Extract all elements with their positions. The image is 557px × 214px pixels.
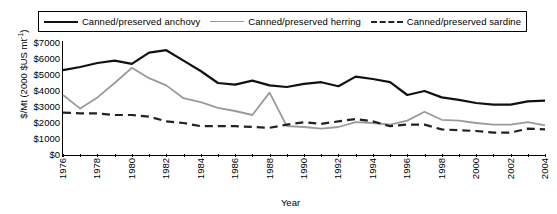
- x-axis-minor-tick: [373, 154, 374, 157]
- x-axis-title: Year: [0, 197, 557, 208]
- x-tick-label: 1996: [402, 158, 412, 179]
- x-axis-minor-tick: [545, 154, 546, 157]
- y-tick-label: $3000: [34, 102, 60, 112]
- x-tick-label: 1982: [161, 158, 171, 179]
- legend-item-herring: Canned/preserved herring: [210, 17, 361, 27]
- x-axis-title-text: Year: [281, 197, 300, 208]
- x-tick-label: 1992: [333, 158, 343, 179]
- x-axis-minor-tick: [287, 154, 288, 157]
- y-tick-label: $2000: [34, 118, 60, 128]
- x-axis-minor-tick: [149, 154, 150, 157]
- y-tick-label: $4000: [34, 86, 60, 96]
- y-tick-label: $6000: [34, 54, 60, 64]
- x-axis-minor-tick: [166, 154, 167, 157]
- dashed-dark-line-icon: [371, 21, 403, 23]
- x-tick-label: 2004: [540, 158, 550, 179]
- x-axis-minor-tick: [493, 154, 494, 157]
- solid-dark-line-icon: [44, 21, 78, 23]
- solid-grey-line-icon: [210, 21, 244, 22]
- x-axis-minor-tick: [425, 154, 426, 157]
- x-tick-label: 1978: [92, 158, 102, 179]
- x-axis-minor-tick: [338, 154, 339, 157]
- chart-legend: Canned/preserved anchovy Canned/preserve…: [38, 11, 527, 32]
- x-axis-minor-tick: [321, 154, 322, 157]
- x-axis-minor-tick: [97, 154, 98, 157]
- x-axis-minor-tick: [63, 154, 64, 157]
- x-axis-minor-tick: [184, 154, 185, 157]
- x-axis-minor-tick: [407, 154, 408, 157]
- series-line: [63, 68, 545, 129]
- series-line: [63, 50, 545, 104]
- chart-figure: Canned/preserved anchovy Canned/preserve…: [0, 0, 557, 214]
- x-tick-label: 2000: [471, 158, 481, 179]
- plot-area: [63, 43, 545, 155]
- x-tick-label: 2002: [506, 158, 516, 179]
- x-tick-label: 1984: [196, 158, 206, 179]
- x-axis-minor-tick: [390, 154, 391, 157]
- legend-item-sardine: Canned/preserved sardine: [371, 17, 521, 27]
- x-axis-minor-tick: [304, 154, 305, 157]
- legend-item-anchovy: Canned/preserved anchovy: [44, 17, 201, 27]
- x-axis-minor-tick: [476, 154, 477, 157]
- x-axis-minor-tick: [528, 154, 529, 157]
- x-axis-minor-tick: [459, 154, 460, 157]
- y-tick-label: $7000: [34, 38, 60, 48]
- y-tick-label: $1000: [34, 134, 60, 144]
- x-axis-minor-tick: [132, 154, 133, 157]
- x-axis-minor-tick: [218, 154, 219, 157]
- x-tick-label: 1980: [127, 158, 137, 179]
- x-axis-minor-tick: [80, 154, 81, 157]
- x-axis-tick-labels: 1976197819801982198419861988199019921994…: [63, 158, 545, 192]
- x-tick-label: 1994: [368, 158, 378, 179]
- series-canvas: [63, 43, 545, 155]
- x-axis-minor-tick: [270, 154, 271, 157]
- legend-label-herring: Canned/preserved herring: [248, 17, 361, 27]
- x-tick-label: 1988: [265, 158, 275, 179]
- x-axis-minor-tick: [356, 154, 357, 157]
- x-tick-label: 1986: [230, 158, 240, 179]
- x-tick-label: 1998: [437, 158, 447, 179]
- x-tick-label: 1990: [299, 158, 309, 179]
- x-axis-minor-tick: [235, 154, 236, 157]
- x-axis-minor-tick: [115, 154, 116, 157]
- x-axis-minor-tick: [201, 154, 202, 157]
- x-axis-minor-tick: [252, 154, 253, 157]
- y-tick-label: $5000: [34, 70, 60, 80]
- legend-label-sardine: Canned/preserved sardine: [407, 17, 521, 27]
- x-axis-minor-tick: [511, 154, 512, 157]
- x-axis-minor-tick: [442, 154, 443, 157]
- legend-label-anchovy: Canned/preserved anchovy: [82, 17, 201, 27]
- y-axis-tick-labels: $7000$6000$5000$4000$3000$2000$1000$0: [18, 38, 60, 160]
- y-axis-title-suffix: ): [18, 30, 29, 33]
- x-tick-label: 1976: [58, 158, 68, 179]
